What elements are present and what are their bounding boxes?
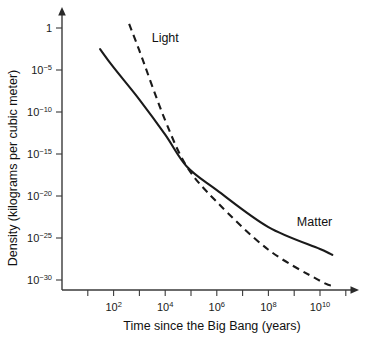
- curves-group: [100, 24, 332, 286]
- y-tick-label: 10−5: [31, 63, 52, 77]
- y-axis-title: Density (kilograms per cubic meter): [6, 70, 20, 267]
- x-tick-label: 1010: [310, 300, 331, 314]
- y-tick-label: 1: [46, 22, 52, 34]
- y-axis-ticks: [56, 28, 62, 280]
- y-tick-label: 10−25: [27, 231, 52, 245]
- y-tick-label: 10−30: [27, 273, 52, 287]
- chart-canvas: 110−510−1010−1510−2010−2510−30 102104106…: [0, 0, 367, 345]
- x-tick-label: 104: [157, 300, 173, 314]
- light-curve-label: Light: [152, 31, 180, 45]
- y-tick-label: 10−15: [27, 147, 52, 161]
- y-axis-arrow-icon: [58, 7, 66, 16]
- x-tick-label: 102: [105, 300, 121, 314]
- y-axis-tick-labels: 110−510−1010−1510−2010−2510−30: [27, 22, 52, 286]
- y-tick-label: 10−20: [27, 189, 52, 203]
- density-vs-time-chart: 110−510−1010−1510−2010−2510−30 102104106…: [0, 0, 367, 345]
- x-axis-title: Time since the Big Bang (years): [123, 319, 300, 333]
- x-tick-label: 108: [260, 300, 276, 314]
- x-tick-label: 106: [209, 300, 225, 314]
- light-curve: [129, 24, 332, 286]
- x-axis-arrow-icon: [351, 286, 360, 294]
- y-tick-label: 10−10: [27, 105, 52, 119]
- x-axis-tick-labels: 1021041061081010: [105, 300, 330, 314]
- matter-curve-label: Matter: [297, 215, 332, 229]
- axes-group: [58, 7, 359, 294]
- x-axis-ticks: [88, 290, 346, 296]
